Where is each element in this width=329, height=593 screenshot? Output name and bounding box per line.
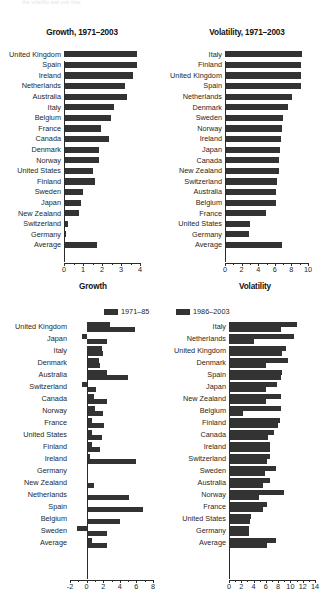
chart-row: Average [0,240,164,251]
axis-tick-label: 4 [118,583,122,590]
row-plot [64,197,140,208]
row-plot [70,477,153,489]
axis-tick-label: 4 [138,266,142,273]
chart-row: Italy [0,102,164,113]
chart-bar [229,490,284,495]
axis-tick-label: 10 [304,266,312,273]
chart-bar [64,125,101,131]
axis-tick-label: 2 [101,583,105,590]
chart-title: Growth [22,282,164,291]
category-label: Average [165,539,229,546]
category-label: Japan [165,146,225,153]
chart-bar [229,399,266,404]
chart-row: Ireland [0,70,164,81]
x-axis: -202468 [70,580,153,593]
axis-minor-tick [260,580,261,582]
category-label: Average [0,539,70,546]
chart-bar [229,514,251,519]
category-label: France [0,125,64,132]
x-axis: 02468101214 [229,580,315,593]
row-plot [64,102,140,113]
chart-bar [229,346,286,351]
category-label: Italy [165,51,225,58]
chart-bar [225,210,266,216]
chart-bar [229,478,270,483]
category-label: Belgium [165,407,229,414]
row-plot [225,187,308,198]
chart-row: Average [0,537,164,549]
axis-minor-tick [247,580,248,582]
axis-tick-label: 12 [299,583,307,590]
category-label: Finland [0,443,70,450]
chart-bar [87,435,102,440]
chart-title: Growth, 1971–2003 [0,28,164,37]
chart-row: New Zealand [0,208,164,219]
row-plot [229,405,315,417]
axis-minor-tick [235,580,236,582]
chart-bar [229,411,243,416]
category-label: Japan [0,335,70,342]
chart-row: Germany [165,525,329,537]
chart-bar [229,454,270,459]
category-label: France [0,419,70,426]
row-plot [225,91,308,102]
category-label: Canada [165,431,229,438]
axis-minor-tick [131,263,132,265]
chart-row: Canada [165,155,329,166]
axis-tick-label: -2 [67,583,74,590]
chart-row: Spain [0,501,164,513]
chart-bar [64,72,133,78]
category-label: Germany [0,467,70,474]
category-label: Canada [165,157,225,164]
chart-bar [225,157,279,163]
chart-row: Belgium [0,113,164,124]
category-label: New Zealand [165,167,225,174]
chart-row: Italy [165,49,329,60]
category-label: Australia [165,188,225,195]
chart-row: Finland [165,417,329,429]
chart-row: Norway [0,155,164,166]
chart-row: Canada [0,393,164,405]
axis-tick-label: 8 [289,266,293,273]
category-label: United Kingdom [0,51,64,58]
chart-row: United Kingdom [165,345,329,357]
axis-tick-label: 1 [81,266,85,273]
chart-row: Ireland [165,441,329,453]
chart-bar [225,115,283,121]
chart-row: Sweden [165,465,329,477]
axis-tick-label: 3 [119,266,123,273]
row-plot [225,134,308,145]
chart-bar [229,543,267,548]
axis-minor-tick [283,263,284,265]
axis-minor-tick [78,580,79,582]
category-label: Switzerland [0,383,70,390]
category-label: Belgium [0,515,70,522]
row-plot [64,134,140,145]
row-plot [225,113,308,124]
category-label: Sweden [165,114,225,121]
chart-bar [229,495,259,500]
category-label: France [165,503,229,510]
chart-row: New Zealand [165,166,329,177]
chart-bar [229,358,288,363]
chart-row: Japan [165,381,329,393]
category-label: Sweden [0,527,70,534]
chart-row: Belgium [165,197,329,208]
row-plot [225,166,308,177]
chart-bar [64,94,127,100]
category-label: Spain [165,82,225,89]
chart-bar [87,375,129,380]
category-label: Norway [165,491,229,498]
chart-bar [87,459,136,464]
chart-bar [87,531,108,536]
legend-label: 1986–2003 [193,307,230,316]
chart-row: Switzerland [165,453,329,465]
chart-row: United States [0,166,164,177]
axis-minor-tick [95,580,96,582]
category-label: Australia [0,371,70,378]
chart-bar [87,483,94,488]
axis-minor-tick [145,580,146,582]
axis-tick-label: 0 [223,266,227,273]
chart-bar [64,189,83,195]
chart-area: United KingdomSpainIrelandNetherlandsAus… [0,49,164,250]
